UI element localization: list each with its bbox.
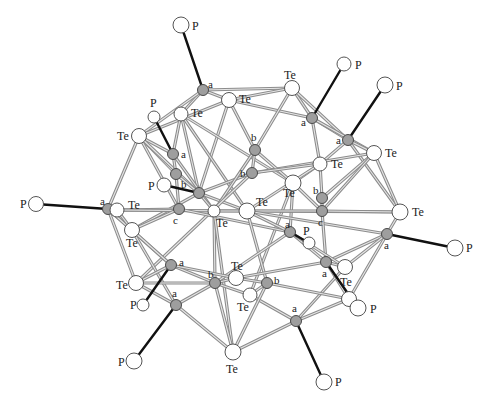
phosphorus-atom	[303, 237, 315, 249]
atom-label: a	[208, 78, 213, 90]
phosphorus-atom	[337, 57, 351, 71]
metal-atom-c	[317, 206, 328, 217]
tellurium-atom	[367, 146, 382, 161]
p-metal-bond	[296, 321, 324, 382]
cluster-diagram: PaTeTePTeaPbTePaPaTebbTeTePaTecTeTebcTea…	[0, 0, 490, 405]
phosphorus-atom	[126, 353, 142, 369]
atom-label: b	[313, 184, 319, 196]
phosphorus-atom	[148, 111, 160, 123]
metal-atom-site	[171, 169, 182, 180]
metal-atom-b	[250, 145, 261, 156]
atom-label: a	[172, 287, 177, 299]
bond	[255, 88, 292, 150]
atom-label: a	[181, 148, 186, 160]
p-metal-bond	[312, 64, 344, 118]
atom-label: P	[150, 96, 157, 110]
atom-label: Te	[340, 275, 352, 289]
phosphorus-atom	[137, 299, 149, 311]
p-metal-bond	[387, 234, 455, 248]
metal-atom-a	[168, 149, 179, 160]
metal-atom-c	[174, 204, 185, 215]
atom-label: Te	[128, 198, 140, 212]
atom-label: P	[20, 197, 27, 211]
metal-atom-a	[198, 85, 209, 96]
atom-label: Te	[226, 362, 238, 376]
atom-label: Te	[385, 146, 397, 160]
p-metal-bond	[181, 25, 203, 90]
bond	[181, 114, 293, 183]
tellurium-atom	[313, 157, 327, 171]
atom-label: Te	[231, 259, 243, 273]
atom-label: Te	[237, 300, 249, 314]
tellurium-atom	[222, 93, 237, 108]
phosphorus-atom	[377, 77, 393, 93]
atom-label: Te	[117, 129, 129, 143]
atom-label: P	[335, 375, 342, 389]
atom-label: P	[148, 179, 155, 193]
atom-label: P	[303, 224, 310, 238]
metal-atom-a	[291, 316, 302, 327]
metal-atom-a	[166, 260, 177, 271]
atom-label: b	[274, 274, 280, 286]
atom-label: P	[118, 355, 125, 369]
bond	[233, 321, 296, 352]
p-metal-bond	[36, 204, 108, 209]
atom-label: P	[466, 241, 473, 255]
tellurium-atom	[110, 203, 124, 217]
atom-label: Te	[126, 236, 138, 250]
phosphorus-atom	[157, 178, 171, 192]
atom-label: a	[301, 116, 306, 128]
tellurium-atom	[285, 81, 300, 96]
bond	[176, 283, 215, 305]
tellurium-atom	[174, 107, 188, 121]
tellurium-atom	[338, 260, 353, 275]
phosphorus-atom	[316, 374, 332, 390]
metal-atom-b	[262, 278, 273, 289]
p-metal-bond	[348, 85, 385, 140]
atom-label: Te	[412, 205, 424, 219]
tellurium-atom	[129, 276, 144, 291]
tellurium-atom	[392, 204, 408, 220]
atom-label: Te	[116, 278, 128, 292]
atom-label: a	[292, 302, 297, 314]
atom-label: Te	[256, 195, 268, 209]
phosphorus-atom	[173, 17, 189, 33]
metal-atom-a	[171, 300, 182, 311]
metal-atom-a	[343, 135, 354, 146]
atom-label: a	[322, 267, 327, 279]
atom-label: Te	[239, 92, 251, 106]
metal-atom-b	[247, 168, 258, 179]
atom-label: Te	[191, 106, 203, 120]
phosphorus-atom	[350, 300, 366, 316]
atom-label: P	[370, 302, 377, 316]
atom-label: b	[251, 131, 257, 143]
atom-label: P	[396, 79, 403, 93]
atom-label: P	[130, 298, 137, 312]
metal-atom-a	[382, 229, 393, 240]
metal-atom-a	[321, 257, 332, 268]
metal-atom-a	[307, 113, 318, 124]
atom-label: Te	[283, 186, 295, 200]
tellurium-atom	[239, 203, 255, 219]
atom-label: b	[181, 178, 187, 190]
bond	[250, 295, 296, 321]
atom-label: b	[240, 167, 246, 179]
atom-label: b	[208, 268, 214, 280]
p-metal-bond	[134, 305, 176, 361]
atom-label: a	[100, 195, 105, 207]
bond	[236, 262, 326, 278]
atom-label: a	[384, 239, 389, 251]
bond	[322, 211, 400, 212]
tellurium-atom	[132, 129, 147, 144]
metal-atom-b	[194, 188, 205, 199]
phosphorus-atom	[447, 240, 463, 256]
atom-label: P	[355, 58, 362, 72]
atom-label: a	[285, 218, 290, 230]
atom-label: Te	[331, 157, 343, 171]
bond	[176, 305, 233, 352]
phosphorus-atom	[29, 197, 44, 212]
tellurium-atom	[225, 344, 241, 360]
atom-label: Te	[284, 68, 296, 82]
molecular-cluster-figure: PaTeTePTeaPbTePaPaTebbTeTePaTecTeTebcTea…	[0, 0, 490, 405]
atom-label: a	[336, 134, 341, 146]
